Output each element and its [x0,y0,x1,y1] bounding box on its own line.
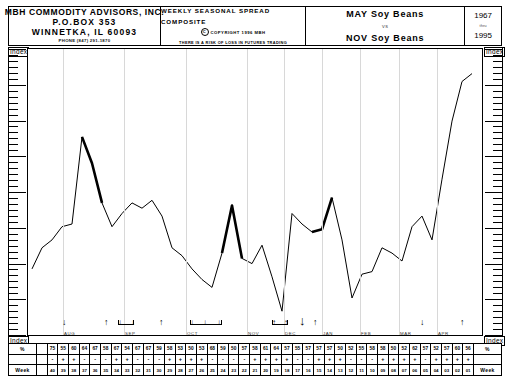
month-gridline [284,49,285,335]
ruler-tick-minor [493,73,502,74]
ruler-tick-minor [493,67,502,68]
sign-cell: + [165,355,176,365]
sign-cell: + [122,355,133,365]
ruler-tick-minor [9,234,18,235]
week-cell: 16 [303,365,314,375]
row-label-week-right: Week [473,365,501,375]
month-label-feb: FEB [361,331,371,336]
week-cell: 13 [335,365,346,375]
sell-signal-arrow-icon: ↓ [203,318,207,327]
sell-signal-arrow-icon: ↓ [190,318,194,327]
buy-signal-arrow-icon: ↑ [313,318,318,327]
ruler-tick-minor [9,55,18,56]
sign-cell: + [314,355,325,365]
sign-cell: + [186,355,197,365]
ruler-tick-major [485,335,502,336]
week-cell: 32 [133,365,144,375]
sell-signal-arrow-icon: ↓ [62,318,67,327]
ruler-tick-major [485,228,502,229]
percent-cell: 56 [463,344,473,354]
week-cell: 22 [239,365,250,375]
ruler-tick-minor [9,132,18,133]
sign-cell: + [112,355,123,365]
sign-cell: - [133,355,144,365]
ruler-tick-minor [493,317,502,318]
copyright-icon: C [201,28,209,36]
ruler-tick-major [9,335,26,336]
ruler-tick-minor [9,61,18,62]
week-cell: 19 [271,365,282,375]
ruler-tick-minor [493,293,502,294]
ruler-tick-minor [493,198,502,199]
ruler-spine-right [502,48,503,336]
sign-cell: + [399,355,410,365]
sell-signal-arrow-icon: ↓ [118,318,122,327]
copyright-text: COPYRIGHT 1996 MBH [211,27,266,38]
month-label-oct: OCT [187,331,198,336]
percent-cell: 60 [453,344,464,354]
percent-cell: 67 [144,344,155,354]
percent-cell: 58 [367,344,378,354]
ruler-tick-minor [9,186,18,187]
sign-cell: + [325,355,336,365]
ruler-tick-minor [9,222,18,223]
week-cell: 28 [176,365,187,375]
week-cell: 12 [346,365,357,375]
week-cell: 34 [112,365,123,375]
percent-cell: 57 [282,344,293,354]
sign-cell: - [303,355,314,365]
month-label-mar: MAR [400,331,412,336]
ruler-tick-minor [9,317,18,318]
row-label-week: Week [9,365,37,375]
week-cells: 4039383736353433323130292827262524232221… [37,365,473,375]
copyright-line: C COPYRIGHT 1996 MBH [201,27,266,38]
ruler-tick-minor [493,79,502,80]
sign-cell: + [431,355,442,365]
percent-cell: 55 [357,344,368,354]
ruler-tick-minor [493,204,502,205]
ruler-tick-major [485,264,502,265]
row-label-percent-right: % [473,344,501,354]
percent-cells: 7555606467586754676759585350536859505758… [37,344,473,354]
sign-cell: - [80,355,91,365]
ruler-tick-minor [9,252,18,253]
month-label-aug: AUG [64,331,75,336]
ruler-tick-minor [9,180,18,181]
ruler-tick-minor [9,150,18,151]
sign-cell: + [282,355,293,365]
ruler-tick-major [9,228,26,229]
sign-cell: + [410,355,421,365]
week-cell: 21 [250,365,261,375]
percent-cell: 64 [80,344,91,354]
percent-cell: 54 [122,344,133,354]
ruler-tick-minor [9,144,18,145]
ruler-tick-minor [493,180,502,181]
week-cell: 08 [389,365,400,375]
spread-title-cell: MAY Soy Beans vs NOV Soy Beans [306,7,465,45]
ruler-tick-minor [493,126,502,127]
month-label-nov: NOV [248,331,259,336]
ruler-tick-minor [493,115,502,116]
ruler-tick-major [485,156,502,157]
ruler-tick-minor [493,281,502,282]
report-title: WEEKLY SEASONAL SPREAD COMPOSITE [161,5,305,27]
sign-cell [37,355,48,365]
week-cell: 25 [208,365,219,375]
week-cell: 07 [399,365,410,375]
sign-cell: - [218,355,229,365]
ruler-tick-minor [9,204,18,205]
ruler-tick-minor [493,61,502,62]
ruler-tick-minor [9,293,18,294]
percent-cell: 67 [133,344,144,354]
firm-phone: PHONE (847) 291-1870 [59,37,111,45]
percent-cell: 57 [303,344,314,354]
ruler-tick-minor [493,252,502,253]
percent-cell: 57 [314,344,325,354]
percent-cell: 75 [48,344,59,354]
sell-signal-arrow-icon: ↓ [131,318,135,327]
month-and-signal-band: AUGSEPOCTNOVDECJANFEBMARAPR↓↑↓↓↑↓↓↓↑↑↓↑↓… [27,318,483,336]
sign-cell: + [442,355,453,365]
firm-info-cell: MBH COMMODITY ADVISORS, INC. P.O.BOX 353… [9,7,161,45]
percent-cell: 50 [335,344,346,354]
month-gridline [399,49,400,335]
